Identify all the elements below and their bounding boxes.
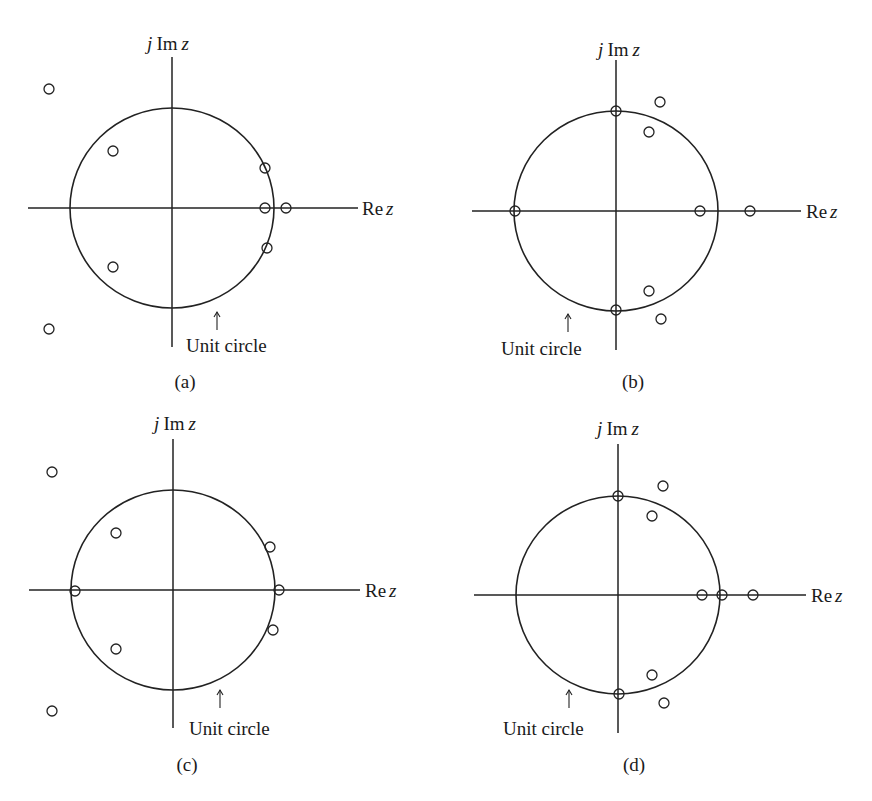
pole-zero-figure: jImzRezUnit circle(a) jImzRezUnit circle… — [0, 0, 872, 801]
zero-marker — [268, 625, 278, 635]
panel-caption: (a) — [174, 371, 195, 393]
zero-marker — [111, 528, 121, 538]
real-axis-label: Rez — [365, 580, 397, 601]
imaginary-axis-label: jImz — [151, 413, 196, 434]
zero-marker — [47, 467, 57, 477]
real-axis-label: Rez — [806, 201, 838, 222]
zero-marker — [44, 324, 54, 334]
unit-circle-label: Unit circle — [186, 335, 267, 356]
panel-b: jImzRezUnit circle(b) — [472, 39, 838, 393]
zero-marker — [644, 127, 654, 137]
zero-marker — [644, 286, 654, 296]
zero-marker — [265, 542, 275, 552]
up-arrow-icon — [565, 314, 571, 332]
unit-circle-label: Unit circle — [189, 718, 270, 739]
imaginary-axis-label: jImz — [144, 33, 189, 54]
panel-caption: (b) — [622, 371, 644, 393]
unit-circle-label: Unit circle — [503, 718, 584, 739]
zero-marker — [47, 706, 57, 716]
panel-a: jImzRezUnit circle(a) — [28, 33, 394, 393]
zero-marker — [111, 644, 121, 654]
up-arrow-icon — [214, 312, 220, 330]
zero-marker — [658, 481, 668, 491]
imaginary-axis-label: jImz — [595, 39, 640, 60]
up-arrow-icon — [566, 690, 572, 708]
zero-marker — [647, 511, 657, 521]
zero-marker — [659, 698, 669, 708]
imaginary-axis-label: jImz — [594, 418, 639, 439]
zero-marker — [108, 146, 118, 156]
panel-d: jImzRezUnit circle(d) — [474, 418, 843, 776]
zero-marker — [44, 84, 54, 94]
real-axis-label: Rez — [362, 198, 394, 219]
real-axis-label: Rez — [811, 585, 843, 606]
zero-marker — [108, 262, 118, 272]
panel-caption: (d) — [623, 754, 645, 776]
zero-marker — [656, 314, 666, 324]
up-arrow-icon — [217, 690, 223, 708]
unit-circle-label: Unit circle — [501, 338, 582, 359]
zero-marker — [647, 670, 657, 680]
panel-c: jImzRezUnit circle(c) — [29, 413, 397, 776]
zero-marker — [655, 97, 665, 107]
panel-caption: (c) — [176, 754, 197, 776]
